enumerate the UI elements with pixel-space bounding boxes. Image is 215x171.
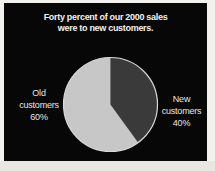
screenshot-root: { "panel": { "background": "#070707", "b… xyxy=(0,0,215,171)
pie-chart xyxy=(62,56,159,153)
chart-title-line1: Forty percent of our 2000 sales xyxy=(4,12,207,23)
label-new-line1: New xyxy=(156,93,207,105)
label-old-line1: Old xyxy=(8,87,70,99)
label-old-customers: Old customers 60% xyxy=(8,87,70,123)
label-old-line2: customers xyxy=(8,99,70,111)
label-new-customers: New customers 40% xyxy=(156,93,207,129)
label-new-line3: 40% xyxy=(156,117,207,129)
label-old-line3: 60% xyxy=(8,111,70,123)
chart-panel: Forty percent of our 2000 sales were to … xyxy=(4,3,207,161)
label-new-line2: customers xyxy=(156,105,207,117)
chart-title: Forty percent of our 2000 sales were to … xyxy=(4,12,207,34)
pie-chart-container xyxy=(62,56,159,153)
chart-title-line2: were to new customers. xyxy=(4,23,207,34)
photo-margin xyxy=(0,161,215,171)
